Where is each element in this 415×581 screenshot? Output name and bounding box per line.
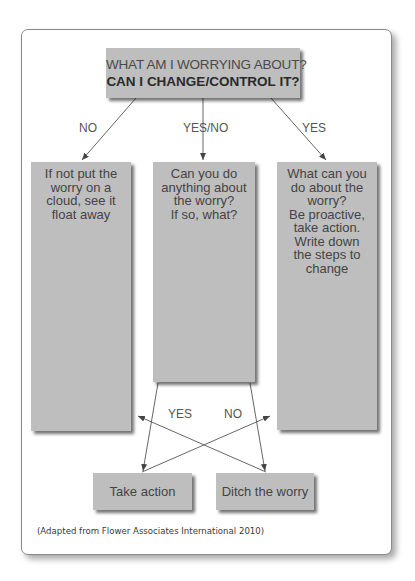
box-text-line: worry on a xyxy=(31,181,131,195)
outcome-take-action: Take action xyxy=(93,473,192,510)
box-no-cloud: If not put the worry on a cloud, see it … xyxy=(31,162,131,431)
decision-label-yes: YES xyxy=(168,408,192,420)
box-text-line: cloud, see it xyxy=(31,194,131,208)
decision-label-no: NO xyxy=(224,408,242,420)
source-caption: (Adapted from Flower Associates Internat… xyxy=(37,526,264,536)
box-yes-no-question: Can you do anything about the worry? If … xyxy=(153,162,255,382)
question-subtitle: CAN I CHANGE/CONTROL IT? xyxy=(106,73,300,90)
box-text-line: float away xyxy=(31,208,131,222)
box-text-line: change xyxy=(277,262,377,276)
box-text-line: Can you do xyxy=(153,167,255,181)
box-text-line: If not put the xyxy=(31,167,131,181)
branch-label-yes-no: YES/NO xyxy=(183,122,228,134)
box-text-line: do about the xyxy=(277,181,377,195)
branch-label-no: NO xyxy=(79,122,97,134)
box-text-line: What can you xyxy=(277,167,377,181)
box-text-line: If so, what? xyxy=(153,208,255,222)
box-text-line: worry? xyxy=(277,194,377,208)
box-text-line: Be proactive, xyxy=(277,208,377,222)
branch-label-yes: YES xyxy=(302,122,326,134)
question-title: WHAT AM I WORRYING ABOUT? xyxy=(106,56,300,73)
box-text-line: take action. xyxy=(277,221,377,235)
box-text-line: Write down xyxy=(277,235,377,249)
question-box: WHAT AM I WORRYING ABOUT? CAN I CHANGE/C… xyxy=(106,48,300,98)
box-text-line: anything about xyxy=(153,181,255,195)
box-text-line: the worry? xyxy=(153,194,255,208)
outcome-ditch-worry: Ditch the worry xyxy=(216,473,314,510)
box-text-line: the steps to xyxy=(277,248,377,262)
box-yes-proactive: What can you do about the worry? Be proa… xyxy=(277,162,377,430)
